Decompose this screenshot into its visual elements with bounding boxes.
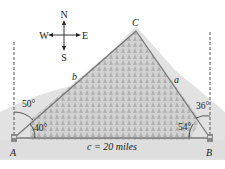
- triangle-diagram: N S W E A B C b a c = 20 miles 50° 40° 3…: [0, 0, 225, 169]
- side-a-label: a: [174, 74, 179, 85]
- angle-A-interior-label: 40°: [34, 123, 48, 133]
- compass-north-label: N: [60, 9, 67, 20]
- tower-icon-B: [207, 134, 213, 142]
- tower-icon-A: [11, 134, 17, 142]
- side-b-label: b: [72, 71, 77, 82]
- angle-B-interior-label: 54°: [178, 122, 192, 132]
- mountain-background: [0, 26, 225, 160]
- compass-rose: [48, 20, 81, 51]
- compass-west-label: W: [39, 30, 49, 41]
- vertex-A-label: A: [9, 147, 17, 158]
- vertex-B-label: B: [206, 147, 212, 158]
- compass-south-label: S: [61, 52, 67, 63]
- vertex-C-label: C: [132, 17, 139, 28]
- angle-B-bearing-label: 36°: [196, 101, 210, 111]
- side-c-label: c = 20 miles: [87, 141, 137, 152]
- angle-A-bearing-label: 50°: [22, 99, 36, 109]
- compass-east-label: E: [82, 30, 88, 41]
